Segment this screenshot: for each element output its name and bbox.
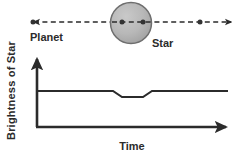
planet-dot-ingress: [120, 20, 125, 25]
orbit-diagram: Planet Star: [30, 3, 231, 50]
light-curve-chart: Brightness of Star Time: [5, 41, 228, 152]
star-disc: [111, 3, 152, 44]
planet-dot-egress: [141, 20, 146, 25]
x-axis-label: Time: [119, 140, 144, 152]
brightness-curve: [37, 91, 228, 97]
y-axis-label: Brightness of Star: [5, 41, 17, 140]
figure-canvas: Planet Star Brightness of Star Time: [0, 0, 237, 161]
planet-dot-left-outside: [31, 20, 36, 25]
planet-label: Planet: [30, 31, 63, 43]
transit-diagram-svg: Planet Star Brightness of Star Time: [0, 0, 237, 161]
planet-dot-right-outside: [198, 20, 203, 25]
star-label: Star: [152, 37, 174, 49]
